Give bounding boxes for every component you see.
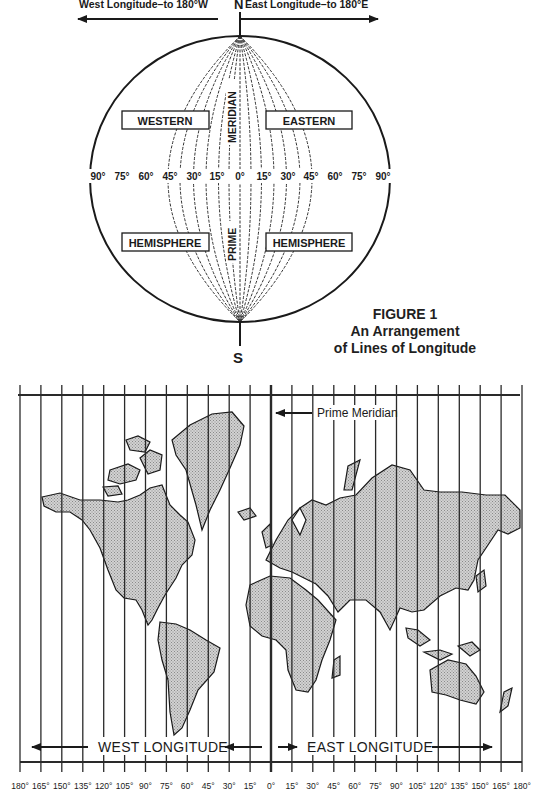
map-degree-label: 120° <box>430 781 448 791</box>
map-degree-label: 135° <box>74 781 92 791</box>
globe-degree-label: 15° <box>256 171 271 182</box>
map-degree-label: 180° <box>11 781 29 791</box>
map-degree-label: 120° <box>95 781 113 791</box>
hemisphere-right-box: HEMISPHERE <box>266 233 352 251</box>
map-degree-label: 60° <box>348 781 361 791</box>
west-longitude-band-label: WEST LONGITUDE <box>98 739 228 755</box>
map-degree-label: 150° <box>471 781 489 791</box>
globe-degree-label: 30° <box>186 171 201 182</box>
globe-degree-label: 60° <box>138 171 153 182</box>
map-degree-label: 135° <box>451 781 469 791</box>
eastern-label: EASTERN <box>283 115 336 127</box>
map-degree-label: 75° <box>369 781 382 791</box>
map-degree-label: 15° <box>244 781 257 791</box>
globe-degree-label: 30° <box>280 171 295 182</box>
east-longitude-label: East Longitude–to 180°E <box>245 0 368 10</box>
globe-degree-label: 90° <box>375 171 390 182</box>
figure-caption-line1: An Arrangement <box>300 323 510 340</box>
continents <box>42 412 520 735</box>
map-degree-label: 60° <box>181 781 194 791</box>
figure-number: FIGURE 1 <box>300 306 510 323</box>
hemisphere-left-box: HEMISPHERE <box>122 233 209 251</box>
map-degree-label: 15° <box>285 781 298 791</box>
map-degree-labels: 180° 165° 150° 135° 120° 105° 90° 75° 60… <box>11 781 531 791</box>
map-degree-label: 90° <box>390 781 403 791</box>
africa <box>246 576 336 692</box>
globe-degree-label: 60° <box>327 171 342 182</box>
globe-degree-label: 15° <box>209 171 224 182</box>
prime-label: PRIME <box>226 228 238 261</box>
prime-meridian-label: Prime Meridian <box>317 406 398 420</box>
north-america <box>42 485 195 625</box>
south-america <box>158 622 220 735</box>
map-degree-label: 105° <box>116 781 134 791</box>
map-degree-label: 45° <box>202 781 215 791</box>
east-longitude-band-label: EAST LONGITUDE <box>307 739 433 755</box>
north-label: N <box>234 0 243 12</box>
map-degree-label: 105° <box>409 781 427 791</box>
western-label-box: WESTERN <box>122 111 209 129</box>
longitude-diagram: West Longitude–to 180°W East Longitude–t… <box>0 0 542 802</box>
map-degree-label: 165° <box>492 781 510 791</box>
globe-degree-label: 0° <box>235 171 245 182</box>
figure-caption: FIGURE 1 An Arrangement of Lines of Long… <box>300 306 510 357</box>
globe-degree-label: 75° <box>114 171 129 182</box>
west-longitude-label: West Longitude–to 180°W <box>79 0 208 10</box>
map-degree-label: 0° <box>267 781 275 791</box>
figure-caption-line2: of Lines of Longitude <box>300 340 510 357</box>
map-degree-label: 30° <box>306 781 319 791</box>
south-label: S <box>233 349 243 366</box>
map-degree-label: 150° <box>53 781 71 791</box>
globe-degree-label: 90° <box>90 171 105 182</box>
map-degree-label: 30° <box>223 781 236 791</box>
meridian-label: MERIDIAN <box>226 91 238 143</box>
map-degree-label: 180° <box>513 781 531 791</box>
map-degree-label: 165° <box>32 781 50 791</box>
hemisphere-right-label: HEMISPHERE <box>273 237 346 249</box>
hemisphere-left-label: HEMISPHERE <box>129 237 202 249</box>
eastern-label-box: EASTERN <box>266 111 352 129</box>
map-degree-label: 90° <box>139 781 152 791</box>
map-degree-label: 75° <box>160 781 173 791</box>
world-map: Prime Meridian WEST LONGITUDE EAST LONGI… <box>11 385 531 791</box>
globe-degree-label: 45° <box>162 171 177 182</box>
map-degree-label: 45° <box>327 781 340 791</box>
globe-degree-label: 75° <box>351 171 366 182</box>
western-label: WESTERN <box>138 115 193 127</box>
globe-degree-label: 45° <box>303 171 318 182</box>
